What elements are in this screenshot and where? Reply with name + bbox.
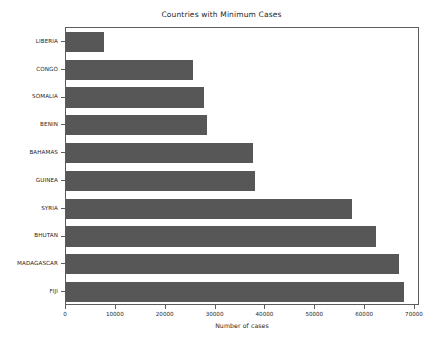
y-tick-mark: [61, 124, 65, 125]
y-tick-label-madagascar: MADAGASCAR: [17, 260, 58, 266]
x-tick-label: 50000: [305, 311, 323, 317]
bar-syria[interactable]: [66, 199, 352, 219]
bar-bhutan[interactable]: [66, 226, 376, 246]
y-tick-mark: [61, 236, 65, 237]
chart-title: Countries with Minimum Cases: [0, 10, 443, 19]
y-tick-mark: [61, 180, 65, 181]
x-tick-mark: [364, 305, 365, 309]
x-tick-mark: [314, 305, 315, 309]
y-tick-label-congo: CONGO: [36, 66, 58, 72]
x-tick-label: 30000: [206, 311, 224, 317]
bar-row: [66, 171, 418, 191]
y-tick-mark: [61, 69, 65, 70]
bar-row: [66, 60, 418, 80]
y-tick-mark: [61, 291, 65, 292]
x-tick-mark: [65, 305, 66, 309]
y-tick-mark: [61, 152, 65, 153]
y-tick-mark: [61, 263, 65, 264]
y-tick-mark: [61, 41, 65, 42]
x-tick-mark: [264, 305, 265, 309]
bar-liberia[interactable]: [66, 32, 104, 52]
bar-row: [66, 87, 418, 107]
bar-row: [66, 254, 418, 274]
bar-guinea[interactable]: [66, 171, 255, 191]
x-tick-mark: [414, 305, 415, 309]
bar-row: [66, 282, 418, 302]
bar-fiji[interactable]: [66, 282, 404, 302]
bar-row: [66, 143, 418, 163]
y-tick-label-bhutan: BHUTAN: [34, 232, 58, 238]
y-tick-label-fiji: FIJI: [49, 288, 58, 294]
y-tick-mark: [61, 208, 65, 209]
x-tick-label: 60000: [355, 311, 373, 317]
bars-layer: [66, 28, 418, 304]
y-tick-label-guinea: GUINEA: [36, 177, 58, 183]
x-tick-mark: [215, 305, 216, 309]
bar-madagascar[interactable]: [66, 254, 399, 274]
bar-somalia[interactable]: [66, 87, 204, 107]
x-tick-label: 40000: [256, 311, 274, 317]
bar-benin[interactable]: [66, 115, 207, 135]
x-tick-mark: [165, 305, 166, 309]
bar-row: [66, 199, 418, 219]
x-tick-label: 20000: [156, 311, 174, 317]
y-tick-label-syria: SYRIA: [41, 205, 58, 211]
x-tick-label: 70000: [405, 311, 423, 317]
x-tick-label: 10000: [106, 311, 124, 317]
x-tick-mark: [115, 305, 116, 309]
bar-row: [66, 115, 418, 135]
bar-bahamas[interactable]: [66, 143, 253, 163]
bar-row: [66, 226, 418, 246]
x-tick-label: 0: [63, 311, 67, 317]
plot-area: [65, 27, 419, 305]
bar-congo[interactable]: [66, 60, 193, 80]
y-tick-label-bahamas: BAHAMAS: [29, 149, 58, 155]
x-axis-label: Number of cases: [65, 322, 419, 329]
y-tick-label-somalia: SOMALIA: [32, 93, 58, 99]
y-tick-label-liberia: LIBERIA: [36, 38, 58, 44]
y-tick-mark: [61, 97, 65, 98]
y-tick-label-benin: BENIN: [40, 121, 58, 127]
bar-chart-figure: Countries with Minimum Cases LIBERIACONG…: [0, 0, 443, 348]
bar-row: [66, 32, 418, 52]
